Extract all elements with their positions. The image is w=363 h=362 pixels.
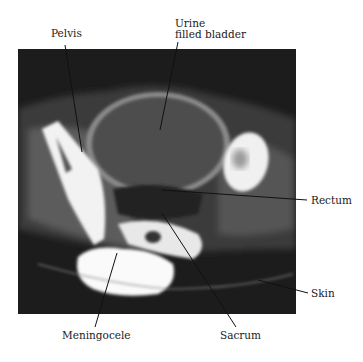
pelvis-leader <box>65 45 82 152</box>
skin-leader <box>258 280 308 293</box>
rectum-leader <box>162 190 307 200</box>
sacrum-leader <box>162 213 236 327</box>
label-meningocele: Meningocele <box>62 329 131 341</box>
leader-lines <box>0 0 363 362</box>
label-pelvis: Pelvis <box>51 27 82 39</box>
bladder-leader <box>160 42 178 130</box>
label-bladder-line2: filled bladder <box>175 28 246 40</box>
meningocele-leader <box>95 253 117 327</box>
label-skin: Skin <box>311 287 335 299</box>
label-rectum: Rectum <box>311 194 352 206</box>
label-sacrum: Sacrum <box>220 329 261 341</box>
